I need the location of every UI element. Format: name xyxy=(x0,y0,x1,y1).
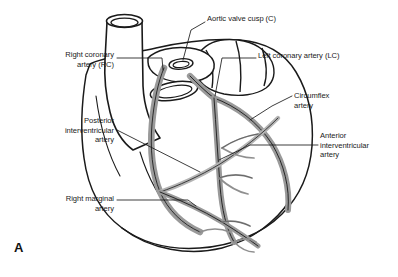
label-posterior-interventricular-artery: Posterior interventricular artery xyxy=(10,116,114,145)
label-circumflex-artery: Circumflex artery xyxy=(294,91,364,110)
left-ventricle-apex-curve xyxy=(122,200,290,251)
figure-panel-letter: A xyxy=(14,240,23,255)
label-right-marginal-artery: Right marginal artery xyxy=(18,194,114,213)
label-left-coronary-artery: Left coronary artery (LC) xyxy=(258,51,388,61)
coronary-artery-figure: Right coronary artery (RC) Posterior int… xyxy=(0,0,398,277)
aorta-lumen-inner-rim xyxy=(111,18,138,27)
leader-anterior-iv xyxy=(219,145,318,160)
branch-lv-mid-2 xyxy=(219,178,248,194)
label-aortic-valve-cusp: Aortic valve cusp (C) xyxy=(207,14,327,24)
label-right-coronary-artery: Right coronary artery (RC) xyxy=(22,50,114,69)
label-anterior-interventricular-artery: Anterior interventricular artery xyxy=(320,131,394,160)
circumflex-artery-outline xyxy=(214,98,288,210)
leader-circumflex xyxy=(250,96,292,120)
